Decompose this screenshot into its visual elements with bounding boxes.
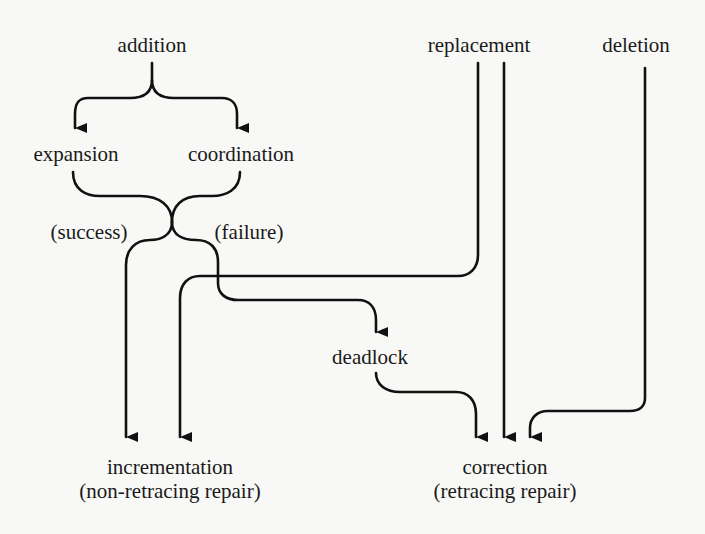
node-incrementation: incrementation (non-retracing repair)	[79, 455, 260, 503]
node-deletion: deletion	[602, 33, 670, 57]
node-replacement: replacement	[428, 33, 531, 57]
node-coordination-label: coordination	[188, 142, 294, 166]
node-deletion-label: deletion	[602, 33, 670, 57]
edge-deadlock-correction	[376, 373, 476, 437]
node-expansion-label: expansion	[33, 142, 118, 166]
node-replacement-label: replacement	[428, 33, 531, 57]
curve-expansion-down	[73, 172, 172, 222]
node-coordination: coordination	[188, 142, 294, 166]
node-deadlock: deadlock	[332, 345, 408, 369]
node-correction: correction (retracing repair)	[434, 455, 577, 503]
edge-addition-coordination	[152, 80, 237, 128]
curve-coordination-down	[172, 172, 240, 222]
node-correction-sublabel: (retracing repair)	[434, 479, 577, 503]
edge-deletion-correction	[530, 68, 645, 437]
edges-layer	[0, 0, 705, 534]
edge-addition-expansion	[75, 63, 152, 128]
node-addition-label: addition	[118, 33, 187, 57]
node-addition: addition	[118, 33, 187, 57]
node-incrementation-sublabel: (non-retracing repair)	[79, 479, 260, 503]
edge-label-failure: (failure)	[215, 220, 284, 244]
node-expansion: expansion	[33, 142, 118, 166]
edge-replacement-incrementation	[180, 63, 478, 437]
node-deadlock-label: deadlock	[332, 345, 408, 369]
node-incrementation-label: incrementation	[79, 455, 260, 479]
diagram-canvas: addition replacement deletion expansion …	[0, 0, 705, 534]
node-correction-label: correction	[434, 455, 577, 479]
edge-label-success: (success)	[51, 220, 128, 244]
edge-success-incrementation	[126, 222, 172, 437]
